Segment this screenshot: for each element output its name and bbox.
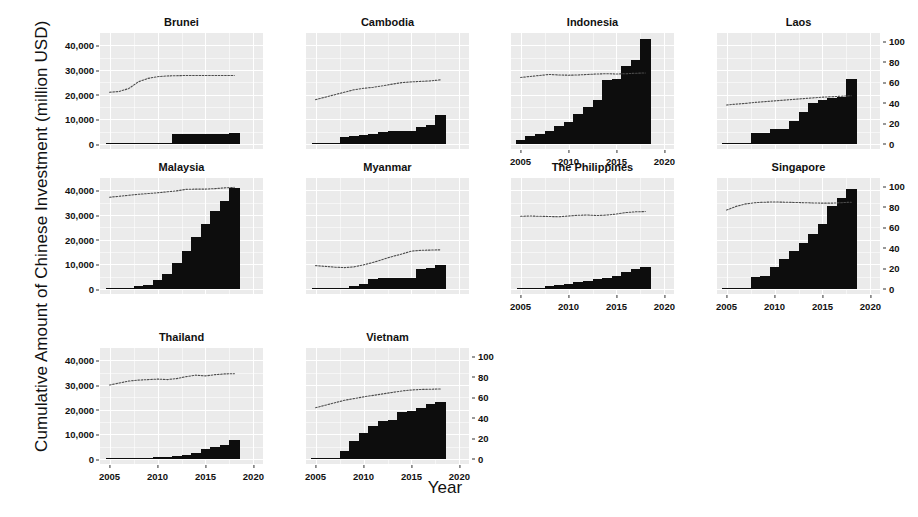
y-tick-label-right: 100 [478, 351, 494, 362]
y-axis-title: Cumulative Amount of Chinese Investment … [32, 32, 52, 452]
trend-line [717, 178, 880, 294]
y-tick-label-right: 60 [889, 77, 900, 88]
panel-title: Brunei [100, 16, 263, 28]
y-tick-label-right: 80 [889, 56, 900, 67]
x-tick-label: 2010 [147, 471, 168, 482]
panel-cambodia: Cambodia [306, 33, 469, 149]
trend-line [100, 33, 263, 149]
y-tick-label-right: 20 [889, 263, 900, 274]
plot-area [717, 33, 880, 149]
panel-title: Indonesia [511, 16, 674, 28]
y-tick-label-right: 60 [889, 222, 900, 233]
y-tick-label-right: 20 [889, 118, 900, 129]
x-tick-label: 2005 [305, 471, 326, 482]
trend-line [511, 178, 674, 294]
x-tick-label: 2020 [449, 471, 470, 482]
y-tick-label-left: 10,000 [65, 259, 94, 270]
x-axis-title: Year [355, 478, 535, 498]
x-tick-label: 2015 [195, 471, 216, 482]
y-tick-label-right: 0 [889, 283, 894, 294]
panel-brunei: Brunei010,00020,00030,00040,000 [100, 33, 263, 149]
y-tick-label-right: 100 [889, 36, 905, 47]
y-tick-label-right: 40 [478, 412, 489, 423]
y-tick-label-right: 0 [478, 453, 483, 464]
plot-area [717, 178, 880, 294]
y-tick-label-right: 0 [889, 138, 894, 149]
y-tick-label-left: 30,000 [65, 65, 94, 76]
panel-title: Myanmar [306, 161, 469, 173]
y-tick-label-right: 40 [889, 242, 900, 253]
y-tick-label-left: 20,000 [65, 404, 94, 415]
x-tick-label: 2020 [243, 471, 264, 482]
y-tick-label-left: 20,000 [65, 234, 94, 245]
y-tick-label-right: 60 [478, 392, 489, 403]
y-tick-label-left: 40,000 [65, 40, 94, 51]
plot-area [100, 348, 263, 464]
panel-title: Thailand [100, 331, 263, 343]
trend-line [511, 33, 674, 149]
y-tick-label-left: 30,000 [65, 380, 94, 391]
panel-singapore: Singapore0204060801002005201020152020 [717, 178, 880, 294]
trend-line [717, 33, 880, 149]
y-tick-label-left: 20,000 [65, 89, 94, 100]
x-tick-label: 2005 [99, 471, 120, 482]
panel-title: Malaysia [100, 161, 263, 173]
panel-myanmar: Myanmar [306, 178, 469, 294]
trend-line [306, 33, 469, 149]
trend-line [100, 178, 263, 294]
figure-root: Cumulative Amount of Chinese Investment … [0, 0, 918, 517]
y-tick-label-left: 0 [89, 454, 94, 465]
panel-title: Laos [717, 16, 880, 28]
x-tick-label: 2015 [401, 471, 422, 482]
trend-line [306, 348, 469, 464]
y-tick-label-left: 40,000 [65, 185, 94, 196]
plot-area [511, 33, 674, 149]
x-tick-label: 2010 [558, 301, 579, 312]
y-tick-label-right: 20 [478, 433, 489, 444]
y-tick-label-left: 10,000 [65, 114, 94, 125]
y-tick-label-left: 0 [89, 284, 94, 295]
x-tick-label: 2020 [654, 301, 675, 312]
panel-title: Cambodia [306, 16, 469, 28]
trend-line [100, 348, 263, 464]
x-tick-label: 2015 [606, 301, 627, 312]
y-tick-label-left: 30,000 [65, 210, 94, 221]
plot-area [306, 178, 469, 294]
panel-title: Singapore [717, 161, 880, 173]
x-tick-label: 2010 [353, 471, 374, 482]
y-tick-label-right: 40 [889, 97, 900, 108]
plot-area [100, 33, 263, 149]
plot-area [511, 178, 674, 294]
panel-malaysia: Malaysia010,00020,00030,00040,000 [100, 178, 263, 294]
panel-the-philippines: The Philippines2005201020152020 [511, 178, 674, 294]
y-tick-label-right: 80 [889, 201, 900, 212]
y-tick-label-left: 0 [89, 139, 94, 150]
x-tick-label: 2005 [510, 301, 531, 312]
y-tick-label-right: 80 [478, 371, 489, 382]
x-tick-label: 2020 [860, 301, 881, 312]
trend-line [306, 178, 469, 294]
x-tick-label: 2015 [812, 301, 833, 312]
plot-area [306, 33, 469, 149]
panel-title: The Philippines [511, 161, 674, 173]
panel-vietnam: Vietnam0204060801002005201020152020 [306, 348, 469, 464]
x-tick-label: 2010 [764, 301, 785, 312]
panel-thailand: Thailand010,00020,00030,00040,0002005201… [100, 348, 263, 464]
panel-indonesia: Indonesia2005201020152020 [511, 33, 674, 149]
panel-title: Vietnam [306, 331, 469, 343]
y-tick-label-left: 10,000 [65, 429, 94, 440]
x-tick-label: 2005 [716, 301, 737, 312]
panel-laos: Laos020406080100 [717, 33, 880, 149]
plot-area [100, 178, 263, 294]
y-tick-label-right: 100 [889, 181, 905, 192]
y-tick-label-left: 40,000 [65, 355, 94, 366]
plot-area [306, 348, 469, 464]
